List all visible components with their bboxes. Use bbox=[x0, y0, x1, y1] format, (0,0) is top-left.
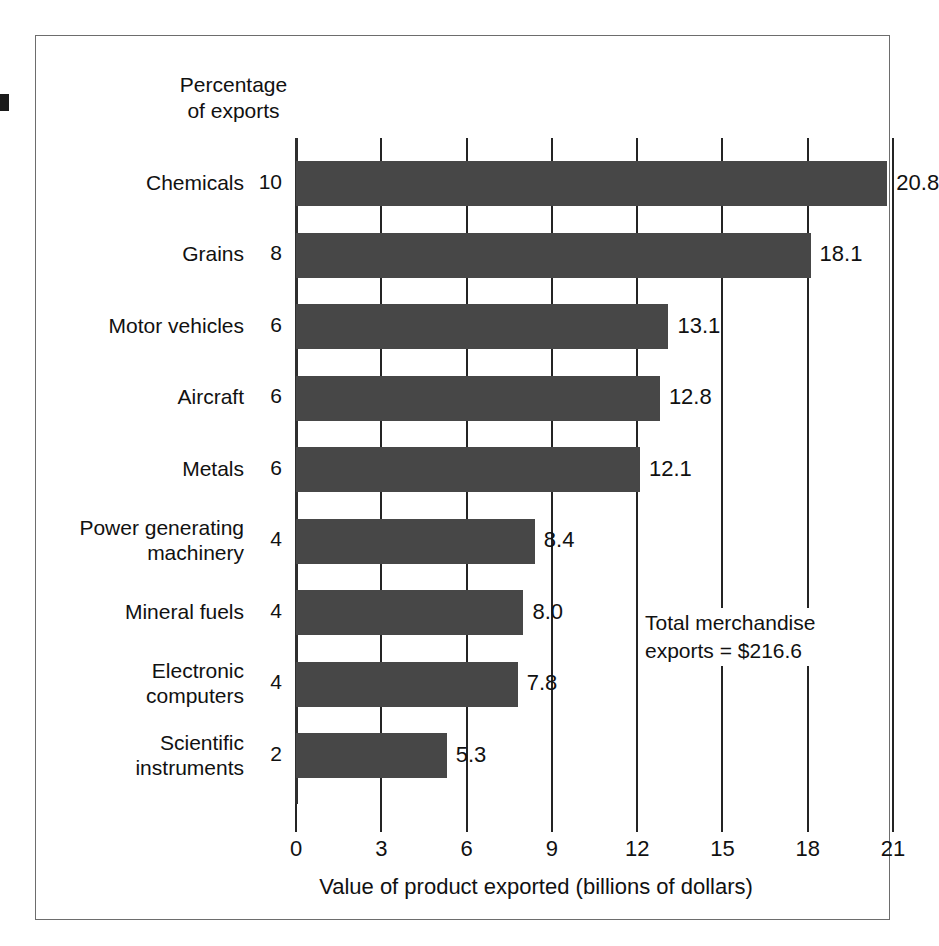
x-tick-0 bbox=[295, 804, 297, 832]
bar-value-label: 8.4 bbox=[544, 527, 575, 553]
bar-chart-plot: Percentage of exports 036912151821 20.81… bbox=[36, 36, 889, 919]
percent-of-exports-value: 6 bbox=[254, 456, 282, 480]
category-label: Electronic computers bbox=[44, 658, 244, 708]
bar-value-label: 12.8 bbox=[669, 384, 712, 410]
percent-of-exports-value: 8 bbox=[254, 241, 282, 265]
bar bbox=[296, 662, 518, 707]
x-tick-label-9: 9 bbox=[522, 836, 582, 862]
category-label: Motor vehicles bbox=[44, 313, 244, 338]
percent-of-exports-value: 4 bbox=[254, 670, 282, 694]
x-tick-label-6: 6 bbox=[437, 836, 497, 862]
category-label: Power generating machinery bbox=[44, 515, 244, 565]
x-tick-label-21: 21 bbox=[863, 836, 923, 862]
category-label: Grains bbox=[44, 241, 244, 266]
category-label: Chemicals bbox=[44, 170, 244, 195]
category-label: Metals bbox=[44, 456, 244, 481]
gridline-21 bbox=[892, 138, 894, 804]
x-tick-label-3: 3 bbox=[351, 836, 411, 862]
bar-value-label: 20.8 bbox=[896, 170, 939, 196]
scan-edge-artifact bbox=[0, 94, 9, 111]
x-tick-label-18: 18 bbox=[778, 836, 838, 862]
figure-frame: Percentage of exports 036912151821 20.81… bbox=[35, 35, 890, 920]
bar bbox=[296, 519, 535, 564]
x-tick-15 bbox=[721, 804, 723, 832]
percent-of-exports-value: 6 bbox=[254, 384, 282, 408]
bar bbox=[296, 590, 523, 635]
bar bbox=[296, 447, 640, 492]
total-merchandise-exports-annotation: Total merchandise exports = $216.6 bbox=[641, 608, 819, 666]
x-tick-label-12: 12 bbox=[607, 836, 667, 862]
percent-of-exports-value: 4 bbox=[254, 527, 282, 551]
bar-value-label: 5.3 bbox=[456, 742, 487, 768]
percentage-of-exports-header: Percentage of exports bbox=[141, 72, 326, 124]
bar bbox=[296, 233, 811, 278]
x-tick-21 bbox=[892, 804, 894, 832]
x-tick-12 bbox=[636, 804, 638, 832]
x-tick-6 bbox=[466, 804, 468, 832]
percent-of-exports-value: 10 bbox=[254, 170, 282, 194]
category-label: Scientific instruments bbox=[44, 730, 244, 780]
bar-value-label: 12.1 bbox=[649, 456, 692, 482]
category-label: Mineral fuels bbox=[44, 599, 244, 624]
category-label: Aircraft bbox=[44, 384, 244, 409]
bar-value-label: 8.0 bbox=[532, 599, 563, 625]
percent-of-exports-value: 6 bbox=[254, 313, 282, 337]
x-tick-3 bbox=[380, 804, 382, 832]
bar bbox=[296, 376, 660, 421]
x-tick-label-0: 0 bbox=[266, 836, 326, 862]
x-tick-18 bbox=[807, 804, 809, 832]
x-tick-9 bbox=[551, 804, 553, 832]
bar-value-label: 7.8 bbox=[527, 670, 558, 696]
x-axis-title: Value of product exported (billions of d… bbox=[186, 874, 886, 900]
x-tick-label-15: 15 bbox=[692, 836, 752, 862]
bar bbox=[296, 733, 447, 778]
bar-value-label: 18.1 bbox=[820, 241, 863, 267]
bar-value-label: 13.1 bbox=[677, 313, 720, 339]
bar bbox=[296, 304, 668, 349]
bar bbox=[296, 161, 887, 206]
percent-of-exports-value: 2 bbox=[254, 742, 282, 766]
percent-of-exports-value: 4 bbox=[254, 599, 282, 623]
